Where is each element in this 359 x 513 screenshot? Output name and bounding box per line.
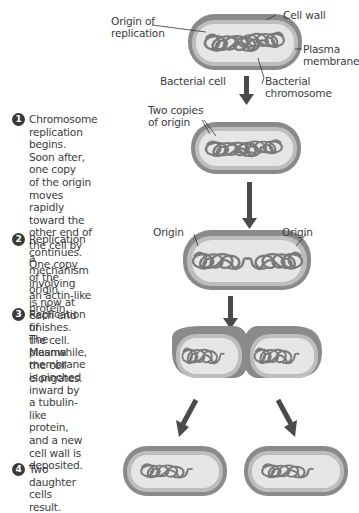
step-text: Two daughter cells result.: [29, 463, 76, 513]
label-cell-wall: Cell wall: [283, 9, 325, 21]
bacterial-cell-step2: [183, 230, 311, 290]
arrow-diagonal-right: [278, 400, 297, 437]
step-number-badge: 2: [12, 233, 25, 246]
label-origin-right: Origin: [282, 226, 313, 238]
arrow-down-1: [239, 76, 254, 105]
arrow-down-2: [242, 182, 257, 229]
bacterial-cell-dividing: [172, 326, 322, 378]
step-number-badge: 3: [12, 308, 25, 321]
step-text: Replication finishes. The plasma membran…: [29, 308, 85, 472]
arrow-diagonal-left: [176, 400, 196, 437]
label-origin-of-replication: Origin of replication: [111, 15, 165, 40]
daughter-cell-left: [123, 446, 227, 496]
label-plasma-membrane: Plasma membrane: [303, 43, 359, 68]
label-bacterial-chromosome: Bacterial chromosome: [265, 75, 332, 100]
step-number-badge: 4: [12, 463, 25, 476]
bacterial-cell-initial: [188, 14, 302, 70]
label-origin-left: Origin: [153, 226, 184, 238]
daughter-cell-right: [244, 446, 348, 496]
label-two-copies-of-origin: Two copies of origin: [148, 104, 203, 129]
label-bacterial-cell: Bacterial cell: [160, 75, 226, 87]
arrow-down-3: [223, 296, 238, 329]
step-number-badge: 1: [12, 113, 25, 126]
